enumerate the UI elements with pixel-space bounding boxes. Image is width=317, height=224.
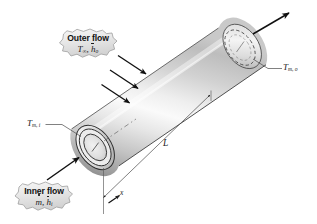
inlet-temp-subscript: m, i bbox=[32, 122, 40, 128]
outlet-mean-temperature-label: Tm, o bbox=[283, 63, 298, 73]
outer-flow-symbols: T∞, ho bbox=[55, 44, 121, 54]
x-axis-label: x bbox=[120, 189, 123, 197]
length-label: L bbox=[163, 139, 168, 149]
x-axis-marker bbox=[109, 196, 120, 204]
inner-flow-callout: Inner flow m, hi bbox=[11, 187, 77, 208]
x-axis-arrow bbox=[109, 196, 120, 204]
outer-flow-arrow-2 bbox=[110, 70, 138, 89]
outlet-flow-arrow bbox=[253, 13, 289, 34]
outlet-temp-subscript: m, o bbox=[288, 66, 298, 72]
outer-flow-title: Outer flow bbox=[55, 34, 121, 44]
inlet-flow-arrow bbox=[47, 158, 79, 181]
inner-flow-symbols: m, hi bbox=[11, 197, 77, 207]
inlet-mean-temperature-label: Tm, i bbox=[27, 119, 40, 129]
inner-flow-arrow bbox=[47, 158, 79, 181]
heat-transfer-tube-diagram: Outer flow T∞, ho Inner flow m, hi Tm, i… bbox=[0, 0, 317, 224]
inner-flow-title: Inner flow bbox=[11, 187, 77, 197]
outer-flow-callout: Outer flow T∞, ho bbox=[55, 34, 121, 55]
outlet-flow-arrow-group bbox=[253, 13, 289, 34]
outer-flow-arrow-1 bbox=[118, 56, 146, 75]
